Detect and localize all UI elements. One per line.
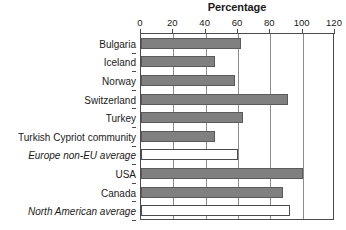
- x-axis-tick-label: 0: [137, 17, 142, 28]
- y-axis-category-label: Turkish Cypriot community: [0, 132, 136, 143]
- x-axis-tick-label: 60: [232, 17, 243, 28]
- y-axis-tick-mark: [132, 53, 136, 54]
- bar: [141, 112, 243, 123]
- plot-area: [140, 34, 334, 220]
- y-axis-category-label: Switzerland: [0, 95, 136, 106]
- bar: [141, 168, 303, 179]
- bar: [141, 94, 288, 105]
- gridline: [303, 34, 304, 219]
- y-axis-tick-mark: [132, 71, 136, 72]
- bar: [141, 56, 215, 67]
- x-axis-tick-label: 40: [199, 17, 210, 28]
- y-axis-tick-mark: [132, 183, 136, 184]
- x-axis-tick-mark: [334, 29, 335, 34]
- bar: [141, 75, 235, 86]
- y-axis-tick-mark: [132, 127, 136, 128]
- y-axis-tick-mark: [132, 220, 136, 221]
- x-axis-tick-label: 20: [167, 17, 178, 28]
- y-axis-category-labels: BulgariaIcelandNorwaySwitzerlandTurkeyTu…: [0, 34, 136, 220]
- bar: [141, 205, 290, 216]
- bar-chart: Percentage 020406080100120 BulgariaIcela…: [0, 0, 346, 230]
- y-axis-category-label: Norway: [0, 76, 136, 87]
- chart-title: Percentage: [140, 1, 334, 13]
- y-axis-tick-mark: [132, 90, 136, 91]
- bar: [141, 149, 238, 160]
- bar: [141, 187, 283, 198]
- y-axis-category-label: Turkey: [0, 113, 136, 124]
- y-axis-category-label: Bulgaria: [0, 39, 136, 50]
- y-axis-category-label: USA: [0, 169, 136, 180]
- y-axis-tick-mark: [132, 201, 136, 202]
- x-axis-tick-label: 80: [264, 17, 275, 28]
- x-axis-tick-labels: 020406080100120: [0, 17, 346, 29]
- y-axis-category-label: Iceland: [0, 57, 136, 68]
- y-axis-category-label: Europe non-EU average: [0, 150, 136, 161]
- y-axis-category-label: North American average: [0, 206, 136, 217]
- x-axis-tick-label: 120: [326, 17, 342, 28]
- bar: [141, 38, 241, 49]
- y-axis-tick-mark: [132, 146, 136, 147]
- y-axis-tick-mark: [132, 108, 136, 109]
- y-axis-tick-mark: [132, 164, 136, 165]
- bar: [141, 131, 215, 142]
- y-axis-category-label: Canada: [0, 188, 136, 199]
- x-axis-tick-label: 100: [294, 17, 310, 28]
